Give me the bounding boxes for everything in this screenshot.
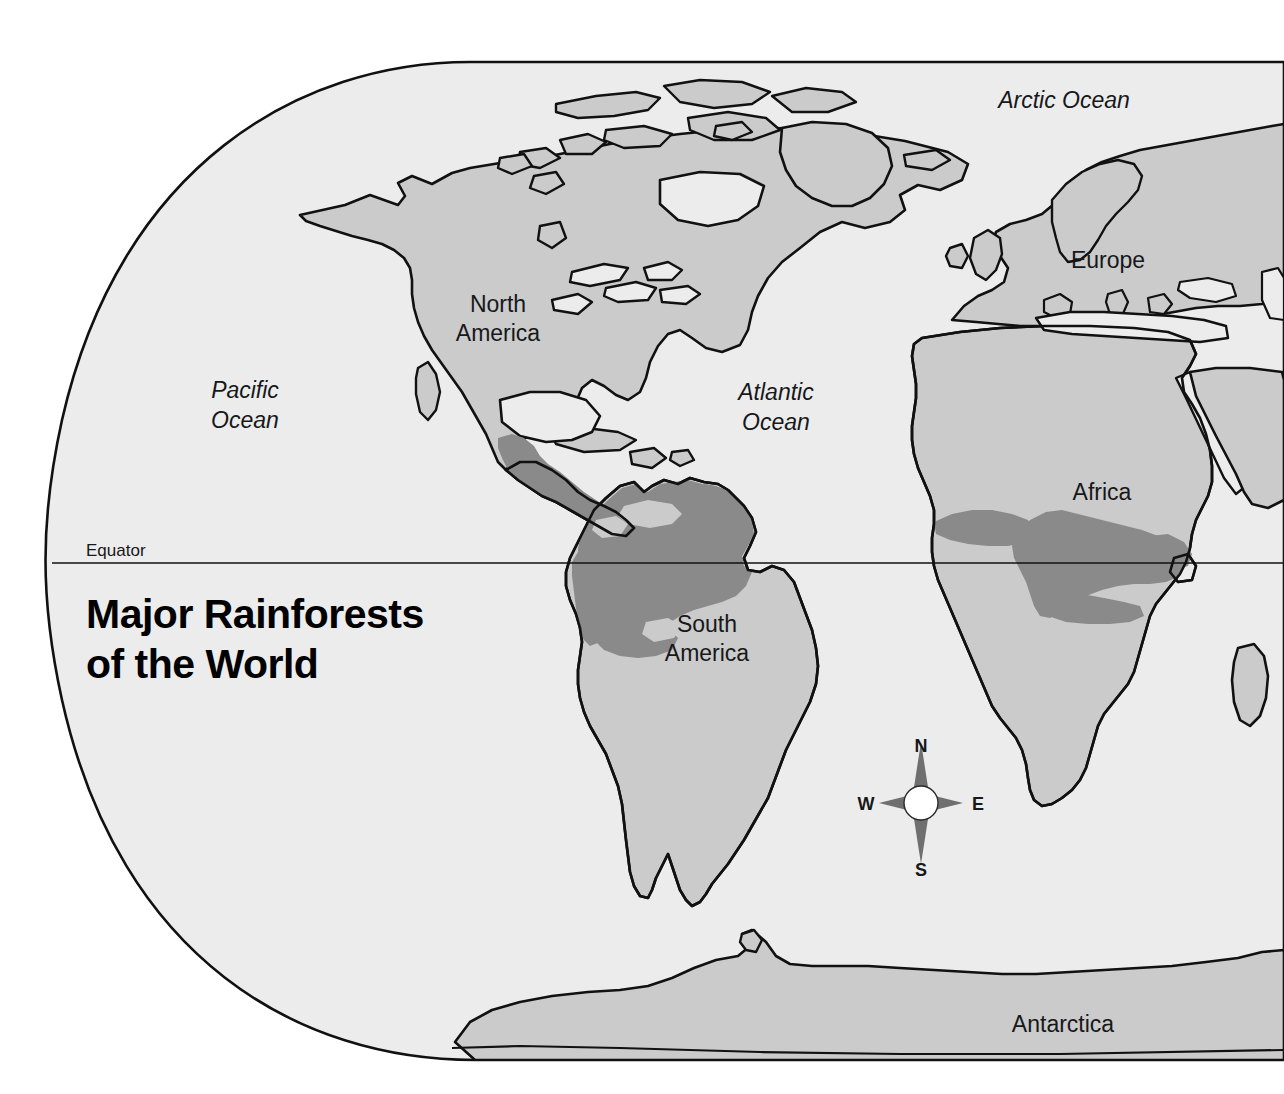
compass-label-east: E: [972, 794, 984, 814]
compass-label-south: S: [915, 860, 927, 880]
ocean-label-pacific-line1: Pacific: [211, 377, 279, 403]
compass-label-north: N: [915, 736, 928, 756]
compass-label-west: W: [858, 794, 875, 814]
ocean-label-pacific-line2: Ocean: [211, 407, 279, 433]
equator-label: Equator: [86, 541, 146, 560]
ocean-label-arctic: Arctic Ocean: [996, 87, 1130, 113]
continent-label-north-america-line2: America: [456, 320, 541, 346]
world-map-svg: Equator Pacific Ocean Atlantic Ocean Arc…: [0, 0, 1284, 1094]
continent-label-south-america-line1: South: [677, 611, 737, 637]
ocean-label-atlantic-line2: Ocean: [742, 409, 810, 435]
continent-label-south-america-line2: America: [665, 640, 750, 666]
map-figure: Equator Pacific Ocean Atlantic Ocean Arc…: [0, 0, 1284, 1094]
map-title-line1: Major Rainforests: [86, 591, 424, 637]
continent-label-africa: Africa: [1073, 479, 1132, 505]
ocean-label-atlantic-line1: Atlantic: [736, 379, 814, 405]
map-title-line2: of the World: [86, 641, 318, 687]
continent-label-north-america-line1: North: [470, 291, 526, 317]
compass-hub: [904, 786, 938, 820]
continent-label-europe: Europe: [1071, 247, 1145, 273]
continent-label-antarctica: Antarctica: [1012, 1011, 1114, 1037]
